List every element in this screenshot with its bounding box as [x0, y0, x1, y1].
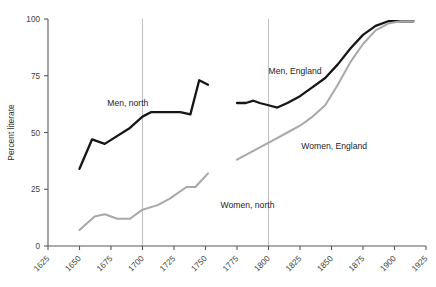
y-tick-label-50: 50: [31, 129, 41, 138]
y-tick-label-0: 0: [35, 242, 40, 251]
gridlines-layer: [143, 19, 269, 246]
literacy-line-chart: 0255075100162516501675170017251750177518…: [0, 0, 436, 287]
series-label-women-england: Women, England: [301, 141, 367, 151]
x-tick-label-1725: 1725: [158, 254, 178, 274]
series-labels-layer: Men, northWomen, northMen, EnglandWomen,…: [107, 66, 367, 210]
series-line-women-england: [237, 21, 413, 159]
y-tick-label-25: 25: [31, 185, 41, 194]
series-line-men-england: [237, 21, 413, 107]
series-line-men-north: [80, 80, 209, 169]
x-tick-label-1650: 1650: [64, 254, 84, 274]
chart-canvas: 0255075100162516501675170017251750177518…: [0, 0, 436, 287]
y-tick-label-75: 75: [31, 72, 41, 81]
series-line-women-north: [80, 173, 209, 230]
tick-labels-layer: 0255075100162516501675170017251750177518…: [26, 15, 429, 273]
x-tick-label-1875: 1875: [347, 254, 367, 274]
x-tick-label-1750: 1750: [190, 254, 210, 274]
series-layer: [80, 21, 414, 230]
axes-layer: [48, 19, 426, 246]
series-label-men-north: Men, north: [107, 98, 148, 108]
x-tick-label-1675: 1675: [95, 254, 115, 274]
y-axis-title: Percent literate: [6, 104, 16, 161]
x-tick-label-1900: 1900: [379, 254, 399, 274]
series-label-men-england: Men, England: [269, 66, 322, 76]
x-tick-label-1925: 1925: [410, 254, 430, 274]
axis-title-layer: Percent literate: [6, 104, 16, 161]
x-tick-label-1850: 1850: [316, 254, 336, 274]
x-tick-label-1825: 1825: [284, 254, 304, 274]
x-tick-label-1775: 1775: [221, 254, 241, 274]
x-tick-label-1625: 1625: [32, 254, 52, 274]
series-label-women-north: Women, north: [221, 200, 275, 210]
y-tick-label-100: 100: [26, 15, 40, 24]
x-tick-label-1800: 1800: [253, 254, 273, 274]
x-tick-label-1700: 1700: [127, 254, 147, 274]
